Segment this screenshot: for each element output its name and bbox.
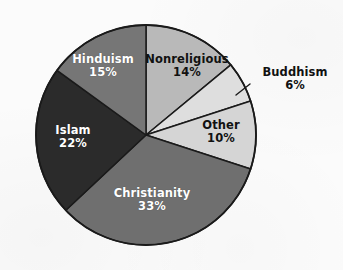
pie-chart-svg [0, 0, 343, 270]
pie-chart-figure: Hinduism 15% Nonreligious 14% Buddhism 6… [0, 0, 343, 270]
pie-wedges [36, 25, 256, 245]
